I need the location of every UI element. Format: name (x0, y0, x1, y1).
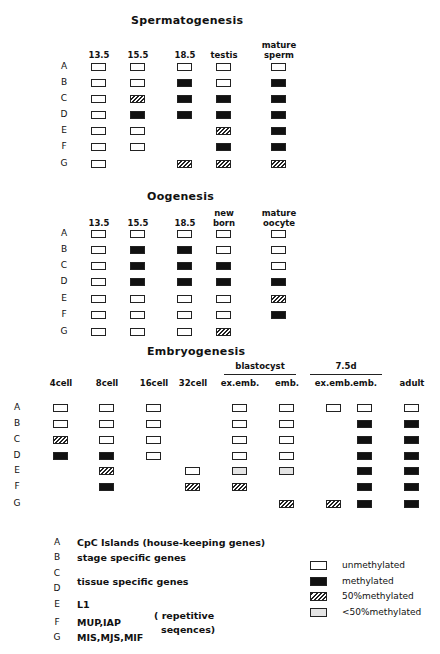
methylation-cell (91, 278, 106, 286)
methylation-cell (130, 95, 145, 103)
methylation-cell (216, 127, 231, 135)
legend-key-label: 50%methylated (342, 591, 414, 601)
methylation-cell (357, 467, 372, 475)
methylation-cell (177, 278, 192, 286)
methylation-cell (53, 420, 68, 428)
methylation-cell (99, 467, 114, 475)
row-label: A (59, 228, 69, 238)
legend-text: MUP,IAP (77, 617, 121, 628)
panel-title-spermatogenesis: Spermatogenesis (131, 14, 243, 27)
methylation-cell (185, 467, 200, 475)
methylation-cell (271, 63, 286, 71)
methylation-cell (216, 79, 231, 87)
legend-letter: D (52, 583, 62, 593)
methylation-cell (271, 111, 286, 119)
methylation-cell (91, 230, 106, 238)
row-label: F (59, 141, 69, 151)
column-header: mature (259, 40, 299, 50)
methylation-cell (177, 95, 192, 103)
legend-letter: C (52, 568, 62, 578)
methylation-cell (53, 436, 68, 444)
methylation-cell (177, 79, 192, 87)
methylation-cell (177, 328, 192, 336)
legend-text: stage specific genes (77, 552, 186, 563)
column-header: 13.5 (79, 50, 119, 60)
column-header: new (204, 208, 244, 218)
methylation-cell (216, 63, 231, 71)
methylation-cell (130, 311, 145, 319)
column-header: adult (392, 378, 432, 388)
row-label: E (12, 465, 22, 475)
row-label: A (59, 61, 69, 71)
methylation-cell (279, 420, 294, 428)
column-header: sperm (259, 50, 299, 60)
methylation-cell (146, 404, 161, 412)
methylation-cell (216, 262, 231, 270)
row-label: F (12, 481, 22, 491)
legend-swatch-methylated (310, 577, 327, 586)
methylation-cell (130, 63, 145, 71)
methylation-cell (91, 95, 106, 103)
column-header: mature (259, 208, 299, 218)
row-label: C (59, 93, 69, 103)
column-header: 4cell (41, 378, 81, 388)
methylation-cell (404, 420, 419, 428)
methylation-cell (404, 467, 419, 475)
methylation-cell (232, 483, 247, 491)
methylation-cell (91, 311, 106, 319)
methylation-cell (53, 404, 68, 412)
methylation-cell (216, 111, 231, 119)
methylation-cell (271, 95, 286, 103)
methylation-cell (216, 246, 231, 254)
methylation-cell (91, 143, 106, 151)
methylation-cell (216, 160, 231, 168)
methylation-cell (326, 404, 341, 412)
methylation-cell (216, 295, 231, 303)
methylation-cell (232, 467, 247, 475)
methylation-cell (130, 295, 145, 303)
methylation-cell (91, 262, 106, 270)
legend-text: CpC Islands (house-keeping genes) (77, 537, 265, 548)
column-header: 8cell (87, 378, 127, 388)
methylation-cell (91, 127, 106, 135)
methylation-cell (271, 143, 286, 151)
methylation-cell (216, 278, 231, 286)
row-label: G (59, 326, 69, 336)
methylation-cell (91, 160, 106, 168)
legend-letter: F (52, 617, 62, 627)
methylation-cell (177, 160, 192, 168)
methylation-cell (99, 483, 114, 491)
row-label: D (59, 109, 69, 119)
panel-title-embryogenesis: Embryogenesis (147, 345, 245, 358)
methylation-cell (130, 278, 145, 286)
row-label: B (12, 418, 22, 428)
methylation-cell (177, 246, 192, 254)
methylation-cell (146, 436, 161, 444)
methylation-cell (279, 500, 294, 508)
legend-swatch--50-methylated (310, 608, 327, 617)
methylation-cell (232, 452, 247, 460)
methylation-cell (232, 420, 247, 428)
group-header-blastocyst: blastocyst (224, 361, 296, 371)
legend-text-cd: tissue specific genes (77, 576, 189, 587)
panel-title-oogenesis: Oogenesis (147, 190, 214, 203)
methylation-cell (271, 160, 286, 168)
methylation-cell (216, 230, 231, 238)
column-header: emb. (345, 378, 385, 388)
methylation-cell (216, 95, 231, 103)
methylation-cell (271, 127, 286, 135)
methylation-cell (271, 79, 286, 87)
methylation-cell (271, 246, 286, 254)
legend-letter: B (52, 552, 62, 562)
group-underline (310, 374, 382, 375)
methylation-cell (99, 404, 114, 412)
methylation-cell (99, 436, 114, 444)
methylation-cell (185, 483, 200, 491)
column-header: 16cell (134, 378, 174, 388)
methylation-cell (279, 467, 294, 475)
row-label: A (12, 402, 22, 412)
methylation-cell (91, 79, 106, 87)
column-header: 15.5 (118, 218, 158, 228)
methylation-cell (271, 262, 286, 270)
methylation-cell (271, 311, 286, 319)
